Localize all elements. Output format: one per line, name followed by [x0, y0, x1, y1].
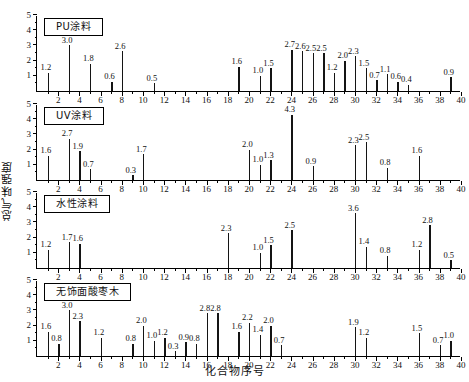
- data-value-label: 0.5: [443, 251, 454, 260]
- data-stem: [143, 154, 144, 180]
- x-tick-label: 24: [283, 361, 299, 370]
- data-value-label: 1.4: [253, 325, 264, 334]
- data-stem: [450, 341, 451, 356]
- data-stem: [207, 313, 208, 356]
- data-value-label: 4.3: [284, 105, 295, 114]
- data-value-label: 1.6: [231, 57, 242, 66]
- data-stem: [79, 321, 80, 356]
- x-tick-label: 40: [453, 361, 469, 370]
- x-tick-label: 12: [156, 96, 172, 105]
- y-tick-minor: [35, 141, 38, 142]
- y-tick-label: 5: [17, 100, 31, 109]
- data-value-label: 2.3: [348, 136, 359, 145]
- data-stem: [69, 242, 70, 268]
- x-tick-minor: [196, 269, 197, 271]
- x-tick-label: 16: [199, 96, 215, 105]
- x-tick-minor: [175, 269, 176, 271]
- data-value-label: 1.9: [72, 142, 83, 151]
- data-value-label: 0.8: [51, 334, 62, 343]
- y-tick-label: 3: [17, 130, 31, 139]
- y-tick: [33, 149, 37, 150]
- data-value-label: 2.0: [263, 316, 274, 325]
- x-tick-minor: [323, 181, 324, 183]
- x-tick-minor: [323, 92, 324, 94]
- x-tick-minor: [48, 181, 49, 183]
- x-tick-minor: [196, 92, 197, 94]
- data-stem: [270, 160, 271, 180]
- x-tick-minor: [281, 181, 282, 183]
- data-stem: [366, 142, 367, 180]
- x-tick-minor: [175, 92, 176, 94]
- y-tick-label: 5: [17, 11, 31, 20]
- x-tick-minor: [344, 357, 345, 359]
- data-stem: [79, 244, 80, 268]
- data-stem: [175, 351, 176, 356]
- x-tick-minor: [366, 181, 367, 183]
- data-value-label: 0.9: [178, 333, 189, 342]
- y-tick: [33, 75, 37, 76]
- data-value-label: 0.7: [83, 160, 94, 169]
- x-tick-minor: [450, 181, 451, 183]
- y-tick-label: 3: [17, 218, 31, 227]
- y-tick-minor: [35, 259, 38, 260]
- y-tick-label: 4: [17, 26, 31, 35]
- x-tick-minor: [154, 92, 155, 94]
- x-tick-minor: [450, 92, 451, 94]
- data-stem: [291, 115, 292, 180]
- x-tick-label: 2: [50, 361, 66, 370]
- y-tick-label: 2: [17, 56, 31, 65]
- y-tick-label: 1: [17, 160, 31, 169]
- data-stem: [260, 165, 261, 180]
- x-tick-minor: [260, 357, 261, 359]
- data-stem: [90, 64, 91, 91]
- x-tick-minor: [260, 92, 261, 94]
- x-tick-label: 34: [389, 96, 405, 105]
- data-value-label: 2.8: [210, 304, 221, 313]
- x-tick-minor: [217, 357, 218, 359]
- data-value-label: 1.5: [359, 59, 370, 68]
- x-tick-label: 22: [262, 361, 278, 370]
- data-value-label: 1.2: [157, 328, 168, 337]
- data-stem: [48, 156, 49, 180]
- data-stem: [69, 139, 70, 180]
- data-stem: [323, 53, 324, 91]
- y-tick: [33, 60, 37, 61]
- x-tick-label: 18: [220, 361, 236, 370]
- chart-panel-4: 2468101214161820222426283032343638401234…: [36, 281, 460, 373]
- data-stem: [387, 168, 388, 180]
- y-tick: [33, 164, 37, 165]
- x-tick-minor: [48, 269, 49, 271]
- x-tick-minor: [238, 181, 239, 183]
- x-tick-label: 10: [135, 96, 151, 105]
- y-tick-label: 1: [17, 248, 31, 257]
- x-tick-minor: [281, 357, 282, 359]
- y-tick-minor: [35, 317, 38, 318]
- data-stem: [376, 80, 377, 91]
- y-tick-minor: [35, 229, 38, 230]
- data-value-label: 2.7: [62, 129, 73, 138]
- data-stem: [281, 345, 282, 356]
- data-value-label: 2.6: [115, 42, 126, 51]
- panel-title-4: 无饰面酸枣木: [44, 283, 131, 301]
- data-stem: [334, 73, 335, 91]
- data-stem: [260, 76, 261, 91]
- data-stem: [291, 230, 292, 268]
- x-tick-minor: [238, 269, 239, 271]
- data-value-label: 2.0: [337, 51, 348, 60]
- data-stem: [419, 333, 420, 356]
- y-tick-minor: [35, 171, 38, 172]
- x-tick-label: 26: [305, 96, 321, 105]
- y-tick-label: 2: [17, 233, 31, 242]
- y-tick: [33, 118, 37, 119]
- x-tick-minor: [281, 92, 282, 94]
- data-stem: [355, 327, 356, 356]
- x-tick-minor: [90, 92, 91, 94]
- data-value-label: 0.4: [401, 75, 412, 84]
- data-stem: [217, 313, 218, 356]
- data-value-label: 1.5: [263, 236, 274, 245]
- x-tick-minor: [260, 181, 261, 183]
- data-stem: [270, 245, 271, 268]
- data-value-label: 1.9: [348, 318, 359, 327]
- data-stem: [185, 342, 186, 356]
- x-tick-minor: [429, 357, 430, 359]
